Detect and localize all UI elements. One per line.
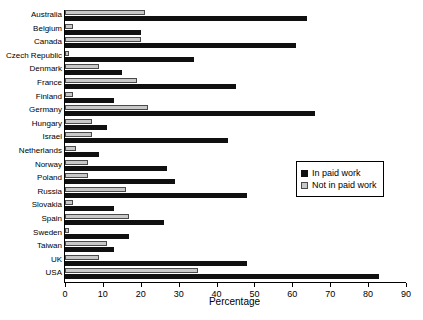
y-axis-label: Netherlands — [19, 145, 62, 156]
bar-group: Australia — [65, 10, 406, 24]
x-axis-tick — [254, 283, 255, 287]
x-axis-tick — [217, 283, 218, 287]
bar-in-paid-work — [65, 70, 122, 75]
y-axis-label: Slovakia — [32, 199, 62, 210]
bar-group: USA — [65, 268, 406, 282]
bar-in-paid-work — [65, 179, 175, 184]
bar-in-paid-work — [65, 125, 107, 130]
bar-group: Sweden — [65, 228, 406, 242]
bar-not-in-paid-work — [65, 64, 99, 69]
y-axis-label: USA — [46, 267, 62, 278]
y-axis-label: Belgium — [33, 23, 62, 34]
y-axis-label: Australia — [31, 9, 62, 20]
bar-group: Canada — [65, 37, 406, 51]
bar-in-paid-work — [65, 261, 247, 266]
bar-not-in-paid-work — [65, 78, 137, 83]
y-axis-label: Russia — [38, 186, 62, 197]
legend-label: In paid work — [312, 168, 361, 178]
x-axis-tick — [292, 283, 293, 287]
y-axis-label: Taiwan — [37, 240, 62, 251]
legend-swatch-icon — [301, 170, 308, 177]
bar-group: UK — [65, 255, 406, 269]
bar-not-in-paid-work — [65, 146, 76, 151]
y-axis-label: Spain — [42, 213, 62, 224]
bar-group: Finland — [65, 92, 406, 106]
bar-not-in-paid-work — [65, 37, 141, 42]
x-axis-tick — [103, 283, 104, 287]
bar-not-in-paid-work — [65, 92, 73, 97]
bar-in-paid-work — [65, 57, 194, 62]
bar-not-in-paid-work — [65, 200, 73, 205]
y-axis-label: UK — [51, 254, 62, 265]
bar-not-in-paid-work — [65, 214, 129, 219]
bar-in-paid-work — [65, 274, 379, 279]
bar-in-paid-work — [65, 193, 247, 198]
x-axis-tick — [368, 283, 369, 287]
y-axis-label: Czech Republic — [6, 50, 62, 61]
bar-in-paid-work — [65, 166, 167, 171]
bar-not-in-paid-work — [65, 51, 69, 56]
bar-in-paid-work — [65, 30, 141, 35]
bar-not-in-paid-work — [65, 10, 145, 15]
bar-not-in-paid-work — [65, 187, 126, 192]
bar-group: Slovakia — [65, 200, 406, 214]
bar-in-paid-work — [65, 234, 129, 239]
y-axis-label: Germany — [29, 104, 62, 115]
bar-group: France — [65, 78, 406, 92]
x-axis-title: Percentage — [64, 296, 405, 307]
bar-group: Hungary — [65, 119, 406, 133]
bar-in-paid-work — [65, 138, 228, 143]
bar-not-in-paid-work — [65, 173, 88, 178]
bar-group: Denmark — [65, 64, 406, 78]
bar-group: Taiwan — [65, 241, 406, 255]
bar-not-in-paid-work — [65, 228, 69, 233]
bar-in-paid-work — [65, 247, 114, 252]
y-axis-label: France — [37, 77, 62, 88]
y-axis-label: Hungary — [32, 118, 62, 129]
y-axis-label: Finland — [36, 91, 62, 102]
bar-not-in-paid-work — [65, 160, 88, 165]
bar-not-in-paid-work — [65, 119, 92, 124]
bar-group: Czech Republic — [65, 51, 406, 65]
legend-item: In paid work — [301, 168, 377, 178]
y-axis-label: Denmark — [30, 63, 62, 74]
bar-in-paid-work — [65, 152, 99, 157]
bar-group: Israel — [65, 132, 406, 146]
bar-group: Germany — [65, 105, 406, 119]
bar-in-paid-work — [65, 206, 114, 211]
bar-in-paid-work — [65, 111, 315, 116]
bar-not-in-paid-work — [65, 24, 73, 29]
bar-in-paid-work — [65, 98, 114, 103]
y-axis-label: Poland — [37, 172, 62, 183]
y-axis-label: Sweden — [33, 227, 62, 238]
bar-not-in-paid-work — [65, 268, 198, 273]
x-axis-tick — [65, 283, 66, 287]
y-axis-label: Israel — [42, 131, 62, 142]
bar-in-paid-work — [65, 84, 236, 89]
bar-not-in-paid-work — [65, 255, 99, 260]
legend-label: Not in paid work — [312, 180, 377, 190]
x-axis-tick — [141, 283, 142, 287]
bar-in-paid-work — [65, 220, 164, 225]
legend-item: Not in paid work — [301, 180, 377, 190]
bar-group: Netherlands — [65, 146, 406, 160]
bar-not-in-paid-work — [65, 105, 148, 110]
bar-in-paid-work — [65, 43, 296, 48]
y-axis-label: Canada — [34, 36, 62, 47]
x-axis-tick — [330, 283, 331, 287]
y-axis-label: Norway — [35, 159, 62, 170]
bar-group: Belgium — [65, 24, 406, 38]
bar-group: Spain — [65, 214, 406, 228]
x-axis-tick — [406, 283, 407, 287]
x-axis-tick — [179, 283, 180, 287]
bar-chart: AustraliaBelgiumCanadaCzech RepublicDenm… — [0, 0, 423, 320]
plot-area: AustraliaBelgiumCanadaCzech RepublicDenm… — [64, 10, 406, 283]
bar-in-paid-work — [65, 16, 307, 21]
bar-not-in-paid-work — [65, 132, 92, 137]
chart-legend: In paid workNot in paid work — [296, 161, 384, 197]
legend-swatch-icon — [301, 182, 308, 189]
bar-not-in-paid-work — [65, 241, 107, 246]
